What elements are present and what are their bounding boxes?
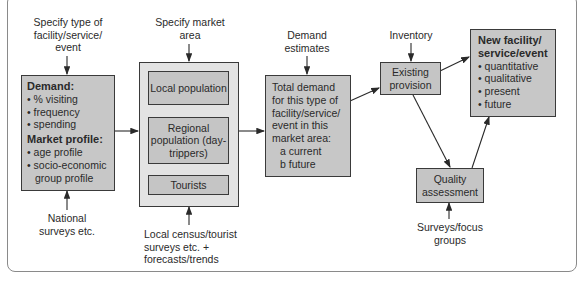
- total-demand-box: Total demand for this type of facility/s…: [265, 75, 351, 177]
- total-demand-text: Total demand for this type of facility/s…: [272, 81, 344, 145]
- demand-item: % visiting: [27, 93, 109, 106]
- demand-item: spending: [27, 118, 109, 131]
- market-profile-heading: Market profile:: [27, 133, 109, 146]
- demand-estimates-label: Demand estimates: [273, 29, 341, 54]
- new-facility-item: quantitative: [478, 60, 548, 73]
- quality-assessment-box: Quality assessment: [416, 168, 484, 203]
- market-profile-item: socio-economic group profile: [27, 159, 109, 185]
- tourists-box: Tourists: [148, 175, 229, 195]
- market-profile-list: age profile socio-economic group profile: [27, 146, 109, 184]
- new-facility-list: quantitative qualitative present future: [478, 60, 548, 111]
- regional-population-box: Regional population (day-trippers): [148, 117, 229, 164]
- new-facility-item: future: [478, 98, 548, 111]
- facility-type-label: Specify type of facility/service/ event: [22, 16, 114, 54]
- demand-list: % visiting frequency spending: [27, 93, 109, 131]
- market-area-box: Local population Regional population (da…: [139, 62, 239, 207]
- inventory-label: Inventory: [380, 29, 442, 42]
- surveys-focus-label: Surveys/focus groups: [410, 221, 490, 246]
- national-surveys-label: National surveys etc.: [30, 212, 104, 237]
- local-population-box: Local population: [148, 71, 229, 105]
- total-demand-current: a current: [272, 145, 344, 158]
- demand-item: frequency: [27, 106, 109, 119]
- existing-provision-box: Existing provision: [380, 62, 441, 95]
- total-demand-future: b future: [272, 158, 344, 171]
- demand-heading: Demand:: [27, 80, 109, 93]
- local-census-label: Local census/tourist surveys etc. + fore…: [144, 228, 244, 266]
- market-profile-item: age profile: [27, 146, 109, 159]
- new-facility-item: qualitative: [478, 72, 548, 85]
- new-facility-box: New facility/ service/event quantitative…: [470, 29, 556, 117]
- new-facility-heading: New facility/ service/event: [478, 34, 548, 60]
- demand-box: Demand: % visiting frequency spending Ma…: [21, 75, 115, 191]
- market-area-label: Specify market area: [145, 16, 235, 41]
- new-facility-item: present: [478, 85, 548, 98]
